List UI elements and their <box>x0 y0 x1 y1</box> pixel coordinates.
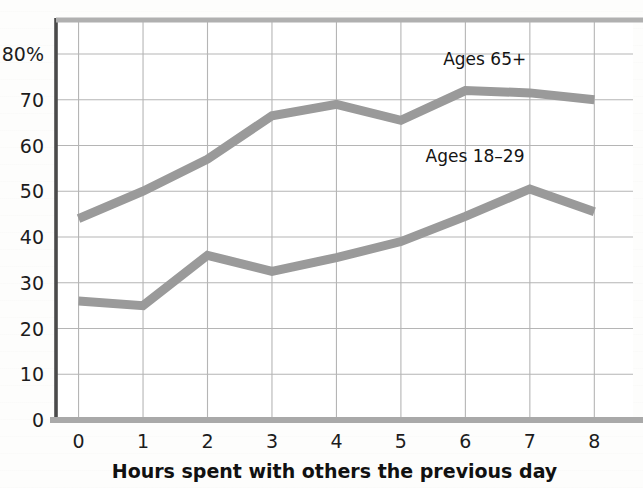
x-axis-tick-labels: 012345678 <box>73 430 601 452</box>
y-tick-label-30: 30 <box>20 272 44 294</box>
y-tick-label-10: 10 <box>20 363 44 385</box>
series-label-ages-65: Ages 65+ <box>443 49 526 69</box>
x-tick-label-5: 5 <box>395 430 407 452</box>
y-tick-label-80: 80% <box>2 43 44 65</box>
x-tick-label-7: 7 <box>524 430 536 452</box>
y-axis-tick-labels: 01020304050607080% <box>2 43 44 431</box>
x-tick-label-2: 2 <box>201 430 213 452</box>
y-tick-label-40: 40 <box>20 226 44 248</box>
y-tick-label-70: 70 <box>20 89 44 111</box>
x-tick-label-4: 4 <box>330 430 342 452</box>
chart-figure: 01020304050607080% 012345678 Ages 65+Age… <box>0 0 643 488</box>
series-label-ages-18-29: Ages 18–29 <box>426 146 525 166</box>
y-tick-label-0: 0 <box>32 409 44 431</box>
x-tick-label-3: 3 <box>266 430 278 452</box>
x-tick-label-8: 8 <box>588 430 600 452</box>
x-tick-label-1: 1 <box>137 430 149 452</box>
line-chart: 01020304050607080% 012345678 Ages 65+Age… <box>0 0 643 488</box>
y-tick-label-20: 20 <box>20 318 44 340</box>
x-tick-label-6: 6 <box>459 430 471 452</box>
y-tick-label-60: 60 <box>20 135 44 157</box>
x-tick-label-0: 0 <box>73 430 85 452</box>
x-axis-title: Hours spent with others the previous day <box>112 460 558 482</box>
y-tick-label-50: 50 <box>20 180 44 202</box>
